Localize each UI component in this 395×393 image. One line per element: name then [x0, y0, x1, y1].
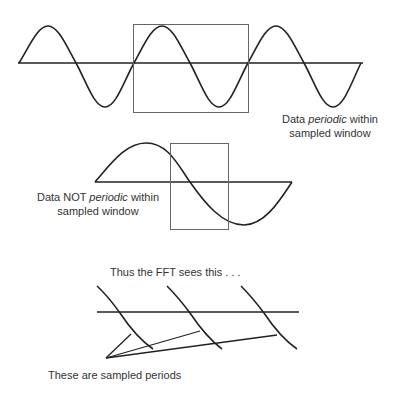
periodic-caption-line1: Data periodic within	[280, 112, 380, 126]
sampled-periods-caption: These are sampled periods	[48, 368, 181, 382]
pointer-lines	[106, 331, 277, 358]
sampled-period-segment	[167, 286, 222, 349]
periodic-caption: Data periodic within sampled window	[280, 112, 380, 140]
sampled-window-box	[134, 25, 249, 113]
not-periodic-caption-line2: sampled window	[36, 204, 160, 218]
sampled-period-segment	[241, 286, 297, 349]
periodic-caption-line2: sampled window	[280, 126, 380, 140]
fft-view-panel	[97, 286, 299, 358]
sine-wave	[19, 26, 361, 107]
not-periodic-caption: Data NOT periodic within sampled window	[36, 190, 160, 218]
fft-view-title: Thus the FFT sees this . . .	[110, 265, 241, 279]
not-periodic-caption-line1: Data NOT periodic within	[36, 190, 160, 204]
periodic-panel	[18, 25, 363, 113]
